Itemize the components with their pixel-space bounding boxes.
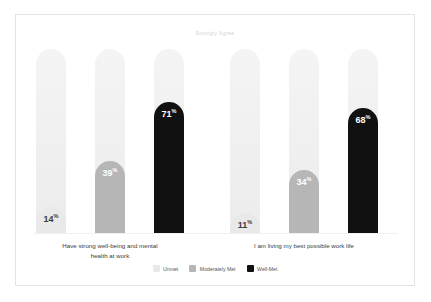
bar-value-label: 71% (154, 109, 184, 119)
bar-value-label: 68% (348, 115, 378, 125)
bar-slot-well-met-2[interactable]: 68% (348, 49, 378, 233)
category-label-wellbeing: Have strong well-being and mental health… (36, 241, 184, 260)
bar-fill-moderately-met[interactable]: 39% (95, 161, 125, 233)
bar-group-wellbeing: 14% 39% 71% (36, 49, 184, 233)
legend-label: Well-Met (257, 266, 277, 272)
bar-fill-moderately-met[interactable]: 34% (289, 170, 319, 233)
legend-item-moderately-met[interactable]: Moderately Met (189, 265, 235, 272)
bar-slot-moderately-met-2[interactable]: 34% (289, 49, 319, 233)
plot-area: 14% 39% 71% 11% (34, 49, 398, 233)
bar-value-label: 39% (95, 168, 125, 178)
legend-label: Moderately Met (200, 266, 236, 272)
category-label-line2: health at work (91, 252, 130, 259)
bar-track (36, 49, 66, 233)
legend-item-unmet[interactable]: Unmet (153, 265, 179, 272)
legend-swatch-icon (247, 265, 254, 272)
category-label-line1: Have strong well-being and mental (62, 242, 157, 249)
chart-title: Strongly Agree (16, 30, 414, 36)
category-label-line1: I am living my best possible work life (254, 242, 354, 249)
bar-value-label: 11% (230, 220, 260, 230)
bar-value-label: 34% (289, 177, 319, 187)
axis-baseline (34, 233, 398, 234)
bar-group-work-life: 11% 34% 68% (230, 49, 378, 233)
bar-slot-unmet-1[interactable]: 14% (36, 49, 66, 233)
bar-track (230, 49, 260, 233)
bar-fill-well-met[interactable]: 71% (154, 102, 184, 233)
bar-fill-unmet[interactable]: 14% (36, 207, 66, 233)
bar-fill-well-met[interactable]: 68% (348, 108, 378, 233)
bar-slot-well-met-1[interactable]: 71% (154, 49, 184, 233)
legend-item-well-met[interactable]: Well-Met (247, 265, 278, 272)
category-label-work-life: I am living my best possible work life (230, 241, 378, 251)
legend-swatch-icon (189, 265, 196, 272)
chart-legend: Unmet Moderately Met Well-Met (16, 265, 414, 272)
bar-value-label: 14% (36, 214, 66, 224)
legend-swatch-icon (153, 265, 160, 272)
bar-slot-moderately-met-1[interactable]: 39% (95, 49, 125, 233)
chart-card: Strongly Agree 14% 39% 71% (15, 14, 415, 286)
legend-label: Unmet (163, 266, 178, 272)
bar-slot-unmet-2[interactable]: 11% (230, 49, 260, 233)
